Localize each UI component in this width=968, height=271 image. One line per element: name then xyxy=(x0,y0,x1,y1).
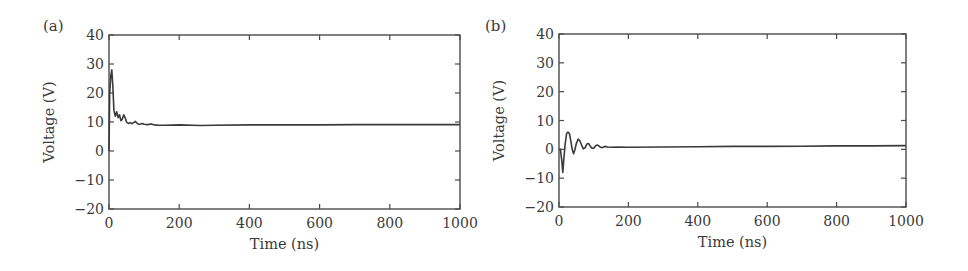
x-axis-title: Time (ns) xyxy=(698,234,767,250)
y-tick-label: 10 xyxy=(86,114,104,130)
y-tick-label: 0 xyxy=(545,141,554,157)
y-tick-label: 0 xyxy=(95,143,104,159)
x-tick-label: 200 xyxy=(166,215,193,231)
y-tick-label: −20 xyxy=(524,199,554,215)
x-tick-label: 1000 xyxy=(888,213,924,229)
x-tick-label: 800 xyxy=(823,213,850,229)
y-tick-label: 30 xyxy=(536,55,554,71)
y-tick-label: 20 xyxy=(86,85,104,101)
y-tick-label: 40 xyxy=(536,26,554,42)
x-axis-title: Time (ns) xyxy=(250,236,319,252)
y-axis-title: Voltage (V) xyxy=(491,80,507,162)
x-tick-label: 0 xyxy=(555,213,564,229)
x-tick-label: 600 xyxy=(754,213,781,229)
chart-b-svg: 02004006008001000−20−10010203040Time (ns… xyxy=(480,0,968,271)
chart-panel-b: (b) 02004006008001000−20−10010203040Time… xyxy=(480,0,968,271)
y-tick-label: −10 xyxy=(74,172,104,188)
y-tick-label: 40 xyxy=(86,27,104,43)
y-tick-label: −10 xyxy=(524,170,554,186)
chart-panel-a: (a) 02004006008001000−20−10010203040Time… xyxy=(0,0,480,271)
x-tick-label: 600 xyxy=(306,215,333,231)
y-tick-label: 10 xyxy=(536,113,554,129)
y-axis-title: Voltage (V) xyxy=(41,81,57,163)
x-tick-label: 1000 xyxy=(442,215,478,231)
voltage-line xyxy=(559,132,906,172)
voltage-line xyxy=(109,70,460,151)
y-tick-label: 20 xyxy=(536,84,554,100)
y-tick-label: 30 xyxy=(86,56,104,72)
plot-frame xyxy=(559,34,906,207)
plot-frame xyxy=(109,35,460,209)
x-tick-label: 200 xyxy=(615,213,642,229)
x-tick-label: 400 xyxy=(236,215,263,231)
chart-a-svg: 02004006008001000−20−10010203040Time (ns… xyxy=(0,0,480,271)
x-tick-label: 0 xyxy=(105,215,114,231)
y-tick-label: −20 xyxy=(74,201,104,217)
x-tick-label: 400 xyxy=(684,213,711,229)
x-tick-label: 800 xyxy=(376,215,403,231)
